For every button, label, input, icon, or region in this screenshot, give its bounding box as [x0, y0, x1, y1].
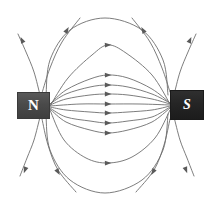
field-line: [174, 34, 196, 95]
field-line: [46, 114, 168, 193]
south-pole-label: S: [183, 98, 191, 112]
field-line: [50, 107, 170, 123]
field-direction-arrow: [105, 111, 112, 116]
field-direction-arrow: [105, 73, 112, 78]
field-line: [20, 117, 40, 176]
field-line: [174, 117, 194, 176]
south-pole-block: S: [170, 90, 204, 120]
field-line: [50, 106, 170, 113]
field-line: [50, 75, 170, 104]
field-direction-arrow: [105, 92, 112, 97]
field-direction-arrow: [105, 121, 112, 126]
field-line: [132, 18, 170, 92]
field-direction-arrow: [105, 42, 112, 47]
north-pole-block: N: [17, 92, 50, 119]
field-line: [50, 45, 170, 106]
field-direction-arrow: [105, 102, 112, 107]
field-direction-arrow: [54, 168, 61, 176]
field-direction-arrow: [105, 161, 112, 166]
field-line: [42, 18, 80, 93]
field-direction-arrow: [183, 166, 190, 174]
north-pole-label: N: [28, 98, 39, 113]
field-direction-arrow: [105, 83, 112, 88]
magnetic-field-diagram: N S: [0, 0, 211, 209]
field-line: [50, 94, 170, 105]
field-direction-arrow: [105, 131, 112, 136]
field-line: [50, 108, 170, 133]
